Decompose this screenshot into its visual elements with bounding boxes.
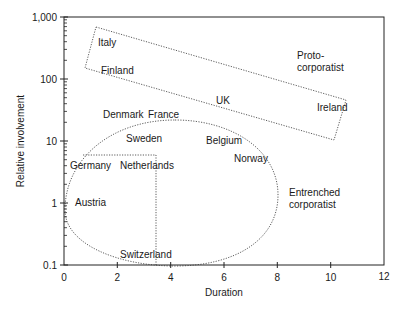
label-germany: Germany	[70, 160, 111, 171]
label-italy: Italy	[98, 37, 116, 48]
label-france: France	[148, 109, 180, 120]
y-tick-10: 10	[46, 136, 58, 147]
label-netherlands: Netherlands	[120, 160, 174, 171]
annotation-proto-line1: Proto-	[297, 50, 324, 61]
y-tick-100: 100	[40, 74, 57, 85]
label-switzerland: Switzerland	[120, 249, 172, 260]
label-austria: Austria	[75, 197, 107, 208]
annotation-entrenched-line2: corporatist	[289, 199, 336, 210]
annotation-proto-line2: corporatist	[297, 62, 344, 73]
x-tick-2: 2	[115, 272, 121, 283]
label-ireland: Ireland	[317, 102, 348, 113]
y-tick-0.1: 0.1	[43, 260, 57, 271]
entrenched-corporatist-region	[65, 120, 278, 266]
label-sweden: Sweden	[126, 133, 162, 144]
y-axis-title: Relative involvement	[15, 95, 26, 187]
label-finland: Finland	[101, 65, 134, 76]
label-belgium: Belgium	[206, 135, 242, 146]
x-tick-4: 4	[168, 272, 174, 283]
proto-corporatist-region	[85, 27, 346, 140]
y-tick-1000: 1,000	[32, 12, 57, 23]
chart: 0.1 1 10 100 1,000 0 2 4 6 8 10 12 Durat…	[0, 0, 405, 313]
y-tick-1: 1	[51, 198, 57, 209]
x-tick-12: 12	[378, 271, 390, 282]
x-axis-title: Duration	[205, 287, 243, 298]
x-tick-6: 6	[221, 272, 227, 283]
label-uk: UK	[216, 95, 230, 106]
label-denmark: Denmark	[103, 109, 145, 120]
label-norway: Norway	[234, 153, 268, 164]
x-tick-8: 8	[275, 272, 281, 283]
x-tick-10: 10	[325, 272, 337, 283]
annotation-entrenched-line1: Entrenched	[289, 187, 340, 198]
x-tick-0: 0	[61, 272, 67, 283]
